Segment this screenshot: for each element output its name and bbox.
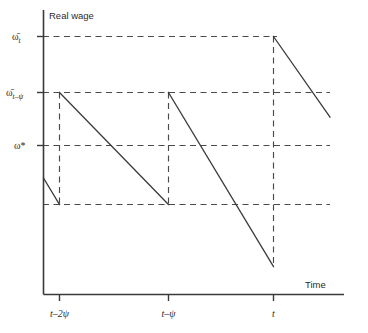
y-tick-label-omega-bar-t-minus-psi: ω̄t–ψ [6, 87, 23, 101]
real-wage-path-group [44, 37, 331, 267]
real-wage-figure: Real wage Time ω̄t ω̄t–ψ ω* t–2ψ t–ψ t [0, 0, 368, 333]
chart-canvas: Real wage Time ω̄t ω̄t–ψ ω* t–2ψ t–ψ t [0, 0, 368, 333]
x-tick-label-t: t [272, 308, 275, 319]
y-tick-labels: ω̄t ω̄t–ψ ω* [6, 31, 26, 151]
x-tick-labels: t–2ψ t–ψ t [50, 308, 275, 319]
y-tick-label-omega-bar-t-minus-psi-sub: t–ψ [13, 92, 24, 101]
x-axis-ticks [60, 295, 274, 302]
y-tick-label-omega-star: ω* [14, 140, 26, 151]
x-tick-label-t-minus-psi: t–ψ [162, 308, 177, 319]
x-tick-label-t-minus-2psi: t–2ψ [50, 308, 70, 319]
vertical-guide-lines [60, 37, 274, 268]
wage-segment-contract-3 [274, 37, 331, 118]
wage-segment-lead-in [44, 178, 60, 205]
y-axis-ticks [37, 37, 44, 146]
y-tick-label-omega-bar-t-sub: t [19, 36, 22, 45]
wage-segment-contract-1 [60, 93, 169, 205]
y-tick-label-omega-bar-t: ω̄t [12, 31, 22, 45]
axes-group [44, 10, 345, 295]
wage-segment-contract-2 [169, 93, 274, 267]
x-axis-title: Time [305, 279, 326, 290]
y-axis-title: Real wage [49, 10, 94, 21]
